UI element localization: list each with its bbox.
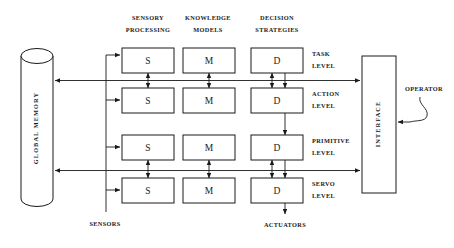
box-letter: D [274,96,281,106]
level-label-task-level: TASK LEVEL [312,50,335,69]
box-letter: M [205,143,214,153]
box-letter: D [274,56,281,66]
level-label-line2: LEVEL [312,192,335,199]
column-headers: SENSORY PROCESSING KNOWLEDGE MODELS DECI… [126,14,299,33]
interface-box: INTERFACE [362,56,396,193]
row-servo-level: S M D SERVO LEVEL [122,178,335,203]
global-memory-cylinder: GLOBAL MEMORY [21,49,53,207]
box-knowledge-models-primitive-level: M [183,135,235,160]
box-decision-strategies-task-level: D [251,48,303,73]
level-label-servo-level: SERVO LEVEL [312,180,335,199]
row-task-level: S M D TASK LEVEL [122,48,335,73]
column-header-line1: DECISION [260,14,294,21]
box-sensory-processing-action-level: S [122,88,174,113]
box-letter: M [205,186,214,196]
column-header-sensory-processing: SENSORY PROCESSING [126,14,170,33]
box-decision-strategies-servo-level: D [251,178,303,203]
operator-annotation: OPERATOR [398,85,443,122]
box-letter: S [145,143,150,153]
operator-label: OPERATOR [405,85,443,92]
level-label-line2: LEVEL [312,62,335,69]
actuators-label: ACTUATORS [264,221,306,228]
diagram-canvas: SENSORY PROCESSING KNOWLEDGE MODELS DECI… [0,0,454,248]
column-header-line1: SENSORY [132,14,164,21]
box-sensory-processing-servo-level: S [122,178,174,203]
level-label-line1: TASK [312,50,330,57]
column-header-decision-strategies: DECISION STRATEGIES [255,14,298,33]
box-knowledge-models-task-level: M [183,48,235,73]
box-sensory-processing-primitive-level: S [122,135,174,160]
box-letter: S [145,56,150,66]
box-letter: D [274,143,281,153]
global-memory-label: GLOBAL MEMORY [32,92,39,164]
box-knowledge-models-servo-level: M [183,178,235,203]
box-decision-strategies-action-level: D [251,88,303,113]
level-label-action-level: ACTION LEVEL [312,90,339,109]
operator-arrow [398,97,427,122]
box-sensory-processing-task-level: S [122,48,174,73]
level-label-line2: LEVEL [312,102,335,109]
box-letter: S [145,186,150,196]
box-letter: S [145,96,150,106]
level-label-line1: SERVO [312,180,335,187]
interface-label: INTERFACE [374,101,381,148]
row-primitive-level: S M D PRIMITIVE LEVEL [122,135,350,160]
level-label-line2: LEVEL [312,149,335,156]
column-header-line2: MODELS [193,26,223,33]
box-knowledge-models-action-level: M [183,88,235,113]
level-label-line1: PRIMITIVE [312,137,350,144]
box-letter: M [205,56,214,66]
column-header-line1: KNOWLEDGE [185,14,231,21]
box-letter: M [205,96,214,106]
column-header-line2: STRATEGIES [255,26,298,33]
column-header-knowledge-models: KNOWLEDGE MODELS [185,14,231,33]
column-header-line2: PROCESSING [126,26,170,33]
sensors-label: SENSORS [89,220,120,227]
row-action-level: S M D ACTION LEVEL [122,88,339,113]
box-letter: D [274,186,281,196]
box-decision-strategies-primitive-level: D [251,135,303,160]
level-label-line1: ACTION [312,90,339,97]
level-label-primitive-level: PRIMITIVE LEVEL [312,137,350,156]
architecture-diagram: SENSORY PROCESSING KNOWLEDGE MODELS DECI… [0,0,454,248]
